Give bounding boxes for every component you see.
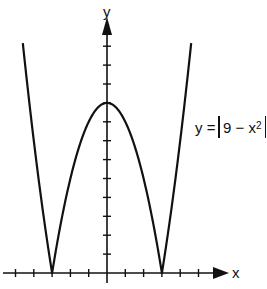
equation-label: y = 9 − x 2	[195, 116, 267, 138]
abs-bar-right	[265, 116, 267, 138]
equation-exponent: 2	[256, 120, 262, 131]
equation-body: 9 − x	[223, 119, 256, 136]
axis-arrows	[102, 17, 229, 279]
equation-lhs: y =	[195, 119, 215, 136]
abs-bar-left	[218, 116, 220, 138]
y-axis-label: y	[103, 3, 111, 20]
x-axis-label: x	[232, 264, 240, 281]
function-plot	[0, 0, 267, 289]
